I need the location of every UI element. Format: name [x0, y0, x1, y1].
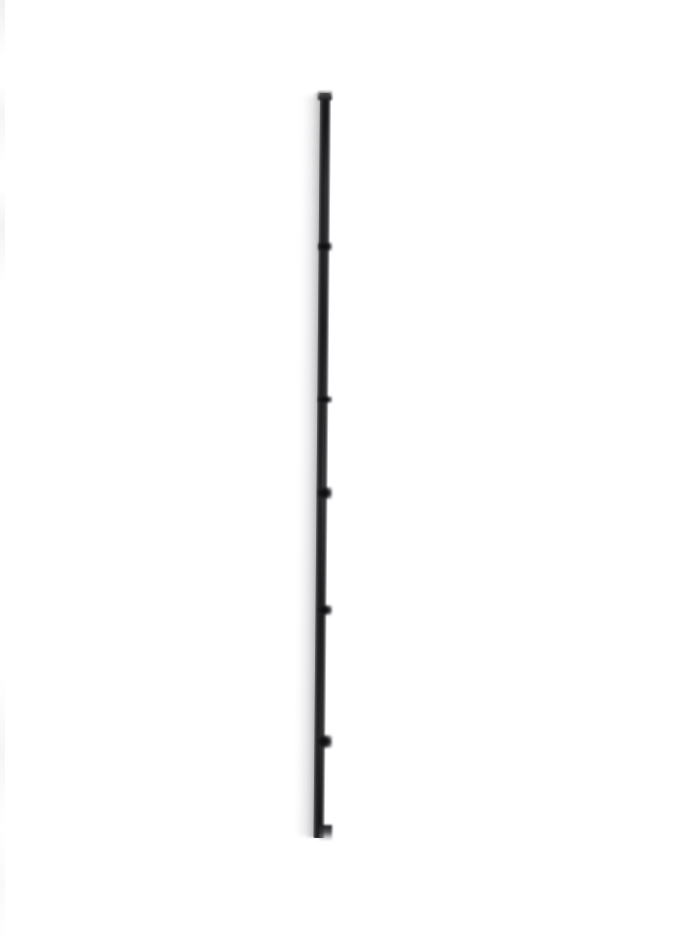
stem-top-cut-end	[318, 91, 332, 100]
plant-stem-specimen	[296, 90, 350, 840]
photograph-canvas	[0, 0, 679, 940]
scan-edge-artifact	[0, 0, 5, 940]
stem-bottom-tapered-base	[319, 825, 332, 841]
